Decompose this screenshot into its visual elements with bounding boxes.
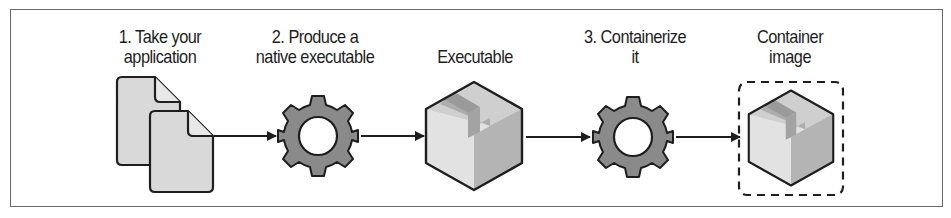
diagram-art [0, 0, 951, 218]
gear-icon [278, 96, 358, 176]
gear-icon [593, 97, 673, 177]
box-icon [426, 82, 522, 190]
dashed-box-icon [739, 82, 843, 195]
documents-icon [117, 77, 213, 192]
